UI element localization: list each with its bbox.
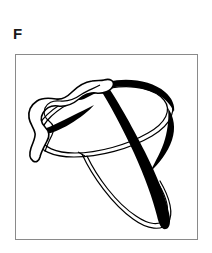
line-drawing-object — [0, 0, 212, 253]
figure-panel: F — [0, 0, 212, 253]
